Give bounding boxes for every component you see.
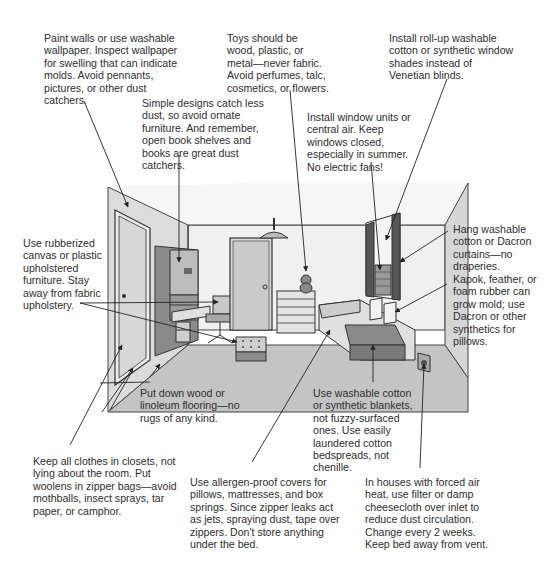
note-air: Install window units or central air. Kee… <box>307 111 411 173</box>
note-walls: Paint walls or use washable wallpaper. I… <box>44 32 177 106</box>
left-door <box>115 210 150 385</box>
note-shades: Install roll-up washable cotton or synth… <box>389 32 513 82</box>
window <box>366 213 400 300</box>
teddy-bear <box>300 275 312 293</box>
note-flooring: Put down wood or linoleum flooring—no ru… <box>140 387 240 424</box>
note-clothes: Keep all clothes in closets, not lying a… <box>33 455 177 517</box>
note-pillows: Kapok, feather, or foam rubber can grow … <box>453 273 537 347</box>
note-covers: Use allergen-proof covers for pillows, m… <box>190 476 340 550</box>
note-furniture-design: Simple designs catch less dust, so avoid… <box>142 97 264 171</box>
note-blankets: Use washable cotton or synthetic blanket… <box>313 387 413 474</box>
back-door <box>230 238 272 330</box>
room <box>108 183 468 412</box>
note-upholstery: Use rubberized canvas or plastic upholst… <box>23 237 102 311</box>
ottoman <box>236 337 266 361</box>
note-curtains: Hang washable cotton or Dacron curtains—… <box>453 223 531 273</box>
dresser <box>277 291 315 333</box>
note-toys: Toys should be wood, plastic, or metal—n… <box>227 32 329 94</box>
note-vent: In houses with forced air heat, use filt… <box>365 476 488 550</box>
